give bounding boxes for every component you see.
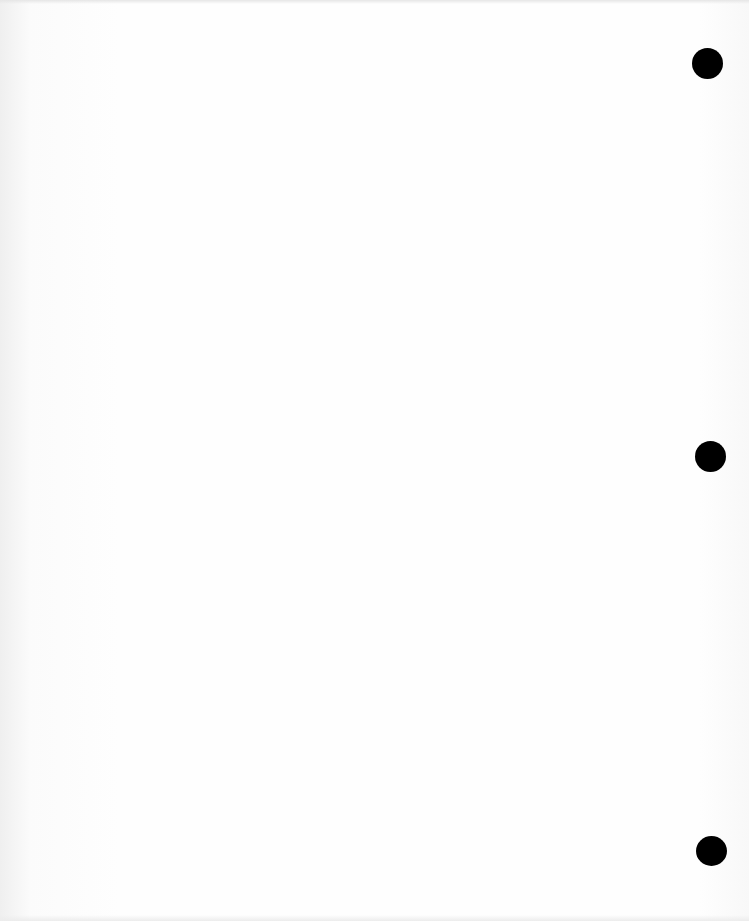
punch-hole-middle — [695, 441, 726, 472]
page-top-edge — [0, 0, 749, 4]
page-bottom-edge — [0, 915, 749, 921]
punch-hole-top — [692, 48, 723, 79]
punch-hole-bottom — [696, 836, 727, 866]
blank-page — [0, 0, 749, 921]
